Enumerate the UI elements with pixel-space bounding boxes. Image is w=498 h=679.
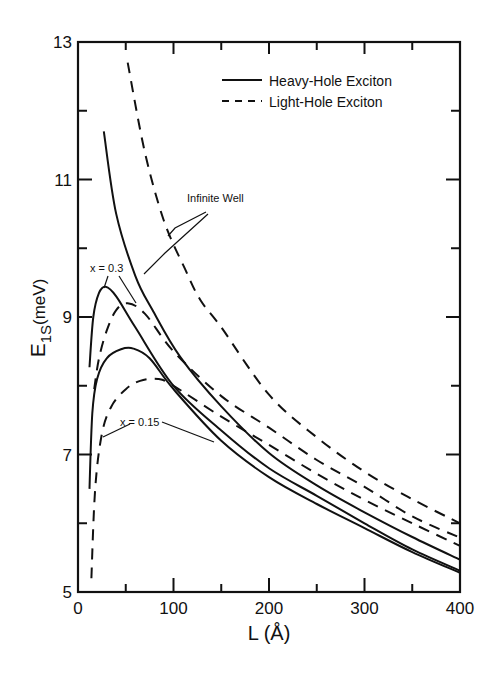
x-tick-label: 300: [350, 599, 378, 618]
annotation-leader-lines: [103, 212, 214, 442]
y-tick-label: 7: [63, 446, 72, 465]
y-tick-label: 13: [53, 33, 72, 52]
x-tick-label: 0: [73, 599, 82, 618]
y-axis-title-main: E: [26, 343, 49, 357]
annotation-infinite-well: Infinite Well: [187, 192, 244, 204]
chart-canvas: 01002003004005791113 Heavy-Hole Exciton …: [0, 0, 498, 679]
axis-ticks: 01002003004005791113: [53, 33, 474, 618]
x-tick-label: 100: [159, 599, 187, 618]
y-axis-title-unit: (meV): [30, 279, 49, 325]
y-axis-title: E1S(meV): [26, 279, 54, 358]
infinite-well-leader-hh: [144, 214, 208, 274]
legend: Heavy-Hole Exciton Light-Hole Exciton: [222, 73, 392, 110]
x03-leader-lh: [119, 276, 136, 303]
series-layer: [90, 63, 461, 579]
series-line-2: [90, 287, 461, 571]
series-line-4: [90, 348, 461, 573]
x-tick-label: 400: [446, 599, 474, 618]
y-tick-label: 11: [54, 171, 72, 190]
y-axis-title-sub: 1S: [37, 325, 54, 343]
plot-frame: [78, 42, 460, 592]
y-axis-label: E1S(meV): [26, 279, 54, 358]
x-tick-label: 200: [255, 599, 283, 618]
series-line-1: [128, 63, 460, 524]
annotation-x-0-15: x = 0.15: [120, 416, 159, 428]
x-axis-label: L (Å): [248, 622, 291, 644]
y-tick-label: 5: [63, 583, 72, 602]
x-axis-title: L (Å): [248, 622, 291, 644]
legend-label-heavy-hole: Heavy-Hole Exciton: [269, 73, 392, 89]
y-tick-label: 9: [63, 308, 72, 327]
legend-label-light-hole: Light-Hole Exciton: [269, 94, 383, 110]
annotation-x-0-3: x = 0.3: [90, 262, 123, 274]
